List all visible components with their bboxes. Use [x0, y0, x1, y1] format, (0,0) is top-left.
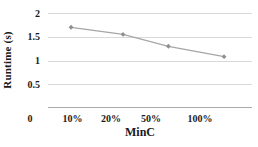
x-axis-title: MinC [100, 125, 180, 139]
data-line [71, 27, 224, 56]
data-point-marker [69, 25, 74, 30]
runtime-vs-minc-chart: Runtime (s) 0 MinC 0.511.5210%20%50%100% [0, 0, 258, 147]
y-tick-label: 1 [0, 54, 40, 67]
x-tick-label: 20% [91, 112, 131, 125]
data-point-marker [222, 54, 227, 59]
x-tick-label: 100% [180, 112, 220, 125]
origin-tick-label: 0 [22, 112, 38, 125]
data-point-marker [121, 32, 126, 37]
y-tick-label: 1.5 [0, 30, 40, 43]
x-tick-label: 10% [52, 112, 92, 125]
data-point-marker [166, 44, 171, 49]
x-tick-label: 50% [131, 112, 171, 125]
y-tick-label: 2 [0, 7, 40, 20]
y-tick-label: 0.5 [0, 78, 40, 91]
plot-area [48, 13, 252, 108]
